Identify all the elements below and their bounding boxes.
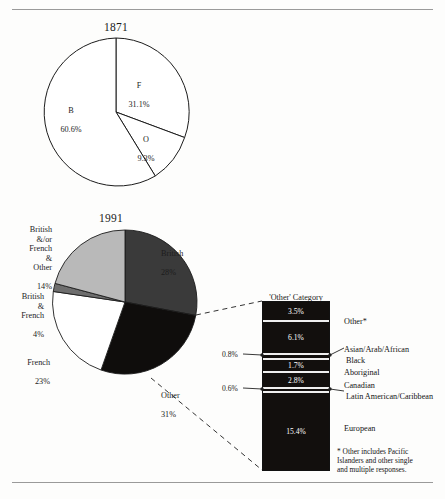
breakout-label-other: Other* [344, 317, 367, 326]
breakout-label-latin-american-caribbean: Latin American/Caribbean [346, 392, 433, 401]
breakout-callout-lines [0, 0, 445, 499]
figure-page: 1871 F 31.1% O 9.3% B 60.6% 1991 [0, 0, 445, 499]
breakout-footnote: * Other includes Pacific Islanders and o… [337, 447, 443, 475]
breakout-label-aboriginal: Aboriginal [344, 368, 379, 377]
breakout-label-european: European [344, 424, 375, 433]
breakout-label-canadian: Canadian [344, 381, 375, 390]
breakout-label-black: Black [346, 356, 365, 365]
breakout-label-asian-arab-african: Asian/Arab/African [344, 345, 409, 354]
